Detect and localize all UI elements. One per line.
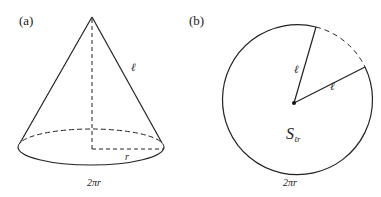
cone-slant-label: ℓ [131,61,136,73]
panel-b: (b) ℓ ℓ Sℓr 2πr [189,13,372,188]
cone-diagram: (a) ℓ r 2πr (b) ℓ ℓ Sℓr 2πr [0,0,381,197]
panel-a-label: (a) [19,13,33,28]
cone-radius-label: r [125,151,129,162]
cone-base-back-arc [18,129,164,147]
cone-left-slant [20,17,92,143]
sector-radius-label-1: ℓ [294,63,299,75]
sector-radius-label-2: ℓ [330,80,335,92]
sector-solid-arc [222,25,372,175]
sector-area-label: Sℓr [286,125,301,144]
sector-dashed-arc [316,27,365,67]
sector-circumference-label: 2πr [283,177,297,188]
cone-right-slant [92,17,162,143]
panel-a: (a) ℓ r 2πr [18,13,164,188]
sector-center-dot [292,101,296,105]
cone-circumference-label: 2πr [87,177,101,188]
panel-b-label: (b) [189,13,204,28]
cone-base-front-arc [18,147,164,165]
